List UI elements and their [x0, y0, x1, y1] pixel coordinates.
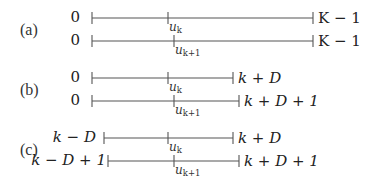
left-bound-label: 0: [70, 8, 80, 26]
left-bound-label: k − D + 1: [31, 151, 106, 169]
row-c: (c) k − D uk k + D k − D + 1 uk+1 k + D …: [20, 128, 319, 178]
interval-line: 0 uk K − 1: [70, 8, 360, 35]
tick-label: uk: [169, 20, 183, 35]
tick-label: uk+1: [175, 103, 200, 118]
right-bound-label: K − 1: [318, 9, 361, 27]
left-bound-label: 0: [70, 31, 80, 49]
interval-line: 0 uk k + D: [70, 68, 281, 95]
row-a: (a) 0 uk K − 1 0 uk+1 K − 1: [20, 8, 361, 58]
right-bound-label: k + D: [238, 129, 281, 147]
tick-label: uk: [169, 80, 183, 95]
interval-line: 0 uk+1 k + D + 1: [70, 91, 318, 118]
row-label: (b): [20, 81, 39, 99]
right-bound-label: k + D: [238, 69, 281, 87]
right-bound-label: K − 1: [318, 32, 361, 50]
window-diagram: (a) 0 uk K − 1 0 uk+1 K − 1 (b) 0: [0, 0, 369, 183]
row-b: (b) 0 uk k + D 0 uk+1 k + D + 1: [20, 68, 319, 118]
left-bound-label: 0: [70, 91, 80, 109]
interval-line: k − D + 1 uk+1 k + D + 1: [31, 151, 319, 178]
left-bound-label: 0: [70, 68, 80, 86]
interval-line: 0 uk+1 K − 1: [70, 31, 360, 58]
left-bound-label: k − D: [53, 128, 96, 146]
row-label: (a): [20, 21, 38, 39]
right-bound-label: k + D + 1: [244, 152, 319, 170]
tick-label: uk: [169, 140, 183, 155]
tick-label: uk+1: [175, 163, 200, 178]
tick-label: uk+1: [175, 43, 200, 58]
right-bound-label: k + D + 1: [244, 92, 319, 110]
